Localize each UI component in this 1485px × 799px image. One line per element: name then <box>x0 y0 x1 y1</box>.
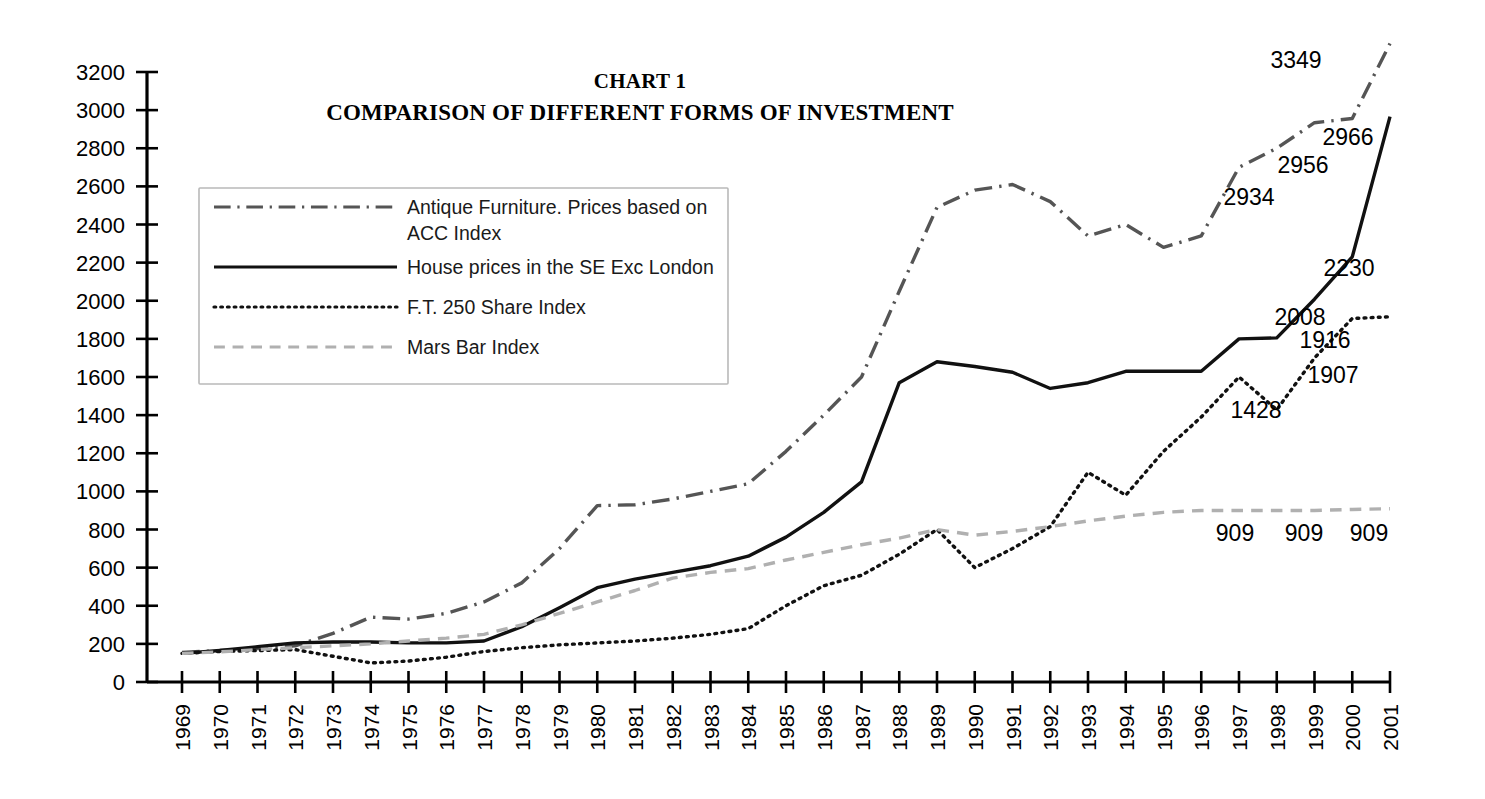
legend-label-1[interactable]: House prices in the SE Exc London <box>407 256 714 278</box>
y-tick-label: 800 <box>88 518 125 543</box>
legend-label-2[interactable]: F.T. 250 Share Index <box>407 296 586 318</box>
x-tick-label: 1990 <box>964 704 987 751</box>
x-tick-label: 1972 <box>284 704 307 751</box>
data-point-label: 2956 <box>1277 152 1328 178</box>
investment-comparison-chart: CHART 1 COMPARISON OF DIFFERENT FORMS OF… <box>0 0 1485 799</box>
x-tick-label: 1982 <box>662 704 685 751</box>
x-tick-label: 1974 <box>360 704 383 751</box>
data-point-labels: 3349296629562934223020081916190714289099… <box>1216 47 1388 546</box>
x-tick-label: 1980 <box>586 704 609 751</box>
legend-label-0-line2[interactable]: ACC Index <box>407 222 502 244</box>
y-tick-label: 2400 <box>76 213 125 238</box>
y-tick-label: 1800 <box>76 327 125 352</box>
x-tick-label: 1999 <box>1304 704 1327 751</box>
data-point-label: 3349 <box>1270 47 1321 73</box>
x-tick-label: 1987 <box>851 704 874 751</box>
data-point-label: 2966 <box>1322 124 1373 150</box>
data-point-label: 1916 <box>1299 327 1350 353</box>
x-tick-label: 1979 <box>549 704 572 751</box>
x-axis: 1969197019711972197319741975197619771978… <box>147 671 1402 751</box>
x-tick-label: 1994 <box>1115 704 1138 751</box>
x-tick-label: 2001 <box>1379 704 1402 751</box>
x-tick-label: 1992 <box>1039 704 1062 751</box>
data-point-label: 909 <box>1216 520 1254 546</box>
data-point-label: 1907 <box>1307 362 1358 388</box>
x-tick-label: 1971 <box>247 704 270 751</box>
x-tick-label: 1973 <box>322 704 345 751</box>
x-tick-label: 1983 <box>700 704 723 751</box>
x-tick-label: 1975 <box>398 704 421 751</box>
y-tick-label: 2200 <box>76 251 125 276</box>
data-point-label: 1428 <box>1230 397 1281 423</box>
y-tick-label: 1600 <box>76 365 125 390</box>
chart-page: CHART 1 COMPARISON OF DIFFERENT FORMS OF… <box>0 0 1485 799</box>
x-tick-label: 1988 <box>888 704 911 751</box>
chart-title: CHART 1 COMPARISON OF DIFFERENT FORMS OF… <box>326 69 954 125</box>
x-tick-label: 1993 <box>1077 704 1100 751</box>
series-line-3 <box>182 509 1390 654</box>
x-tick-label: 1998 <box>1266 704 1289 751</box>
x-tick-label: 1969 <box>171 704 194 751</box>
x-tick-label: 1977 <box>473 704 496 751</box>
y-tick-label: 600 <box>88 556 125 581</box>
legend-label-0[interactable]: Antique Furniture. Prices based on <box>407 196 707 218</box>
y-tick-label: 3000 <box>76 98 125 123</box>
y-tick-label: 400 <box>88 594 125 619</box>
y-tick-label: 1000 <box>76 479 125 504</box>
data-point-label: 2230 <box>1323 255 1374 281</box>
legend-label-3[interactable]: Mars Bar Index <box>407 336 539 358</box>
y-tick-label: 1200 <box>76 441 125 466</box>
x-tick-label: 1996 <box>1190 704 1213 751</box>
data-point-label: 2934 <box>1223 184 1274 210</box>
data-point-label: 909 <box>1350 520 1388 546</box>
x-tick-label: 1981 <box>624 704 647 751</box>
x-tick-label: 1976 <box>435 704 458 751</box>
y-tick-label: 200 <box>88 632 125 657</box>
x-tick-label: 1997 <box>1228 704 1251 751</box>
x-tick-label: 1986 <box>813 704 836 751</box>
y-tick-label: 1400 <box>76 403 125 428</box>
y-tick-label: 2000 <box>76 289 125 314</box>
x-tick-label: 1991 <box>1002 704 1025 751</box>
y-tick-label: 2800 <box>76 136 125 161</box>
x-tick-label: 1978 <box>511 704 534 751</box>
y-axis: 0200400600800100012001400160018002000220… <box>76 60 158 695</box>
y-tick-label: 0 <box>113 670 125 695</box>
chart-title-line-2: COMPARISON OF DIFFERENT FORMS OF INVESTM… <box>326 100 954 125</box>
y-tick-label: 3200 <box>76 60 125 85</box>
chart-title-line-1: CHART 1 <box>594 69 687 93</box>
y-tick-label: 2600 <box>76 174 125 199</box>
x-tick-label: 1970 <box>209 704 232 751</box>
x-tick-label: 1984 <box>737 704 760 751</box>
x-tick-label: 1989 <box>926 704 949 751</box>
x-tick-label: 1995 <box>1153 704 1176 751</box>
x-tick-label: 1985 <box>775 704 798 751</box>
data-point-label: 909 <box>1285 520 1323 546</box>
chart-legend[interactable]: Antique Furniture. Prices based onACC In… <box>199 188 728 384</box>
x-tick-label: 2000 <box>1341 704 1364 751</box>
